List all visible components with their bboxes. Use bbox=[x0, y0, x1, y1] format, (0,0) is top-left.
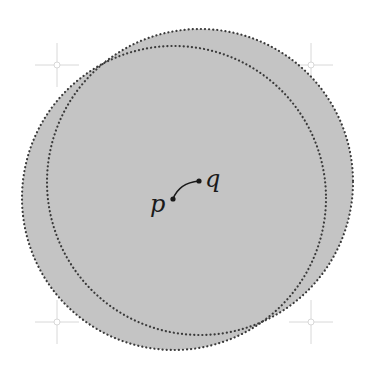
crosshair-marker bbox=[289, 300, 333, 344]
disks bbox=[22, 29, 353, 350]
point-p-dot bbox=[170, 196, 175, 201]
crosshair-marker bbox=[35, 43, 79, 87]
point-q-label: q bbox=[205, 165, 220, 193]
two-disks-diagram: pq bbox=[0, 0, 367, 377]
point-q-dot bbox=[196, 178, 201, 183]
point-p-label: p bbox=[150, 190, 165, 218]
